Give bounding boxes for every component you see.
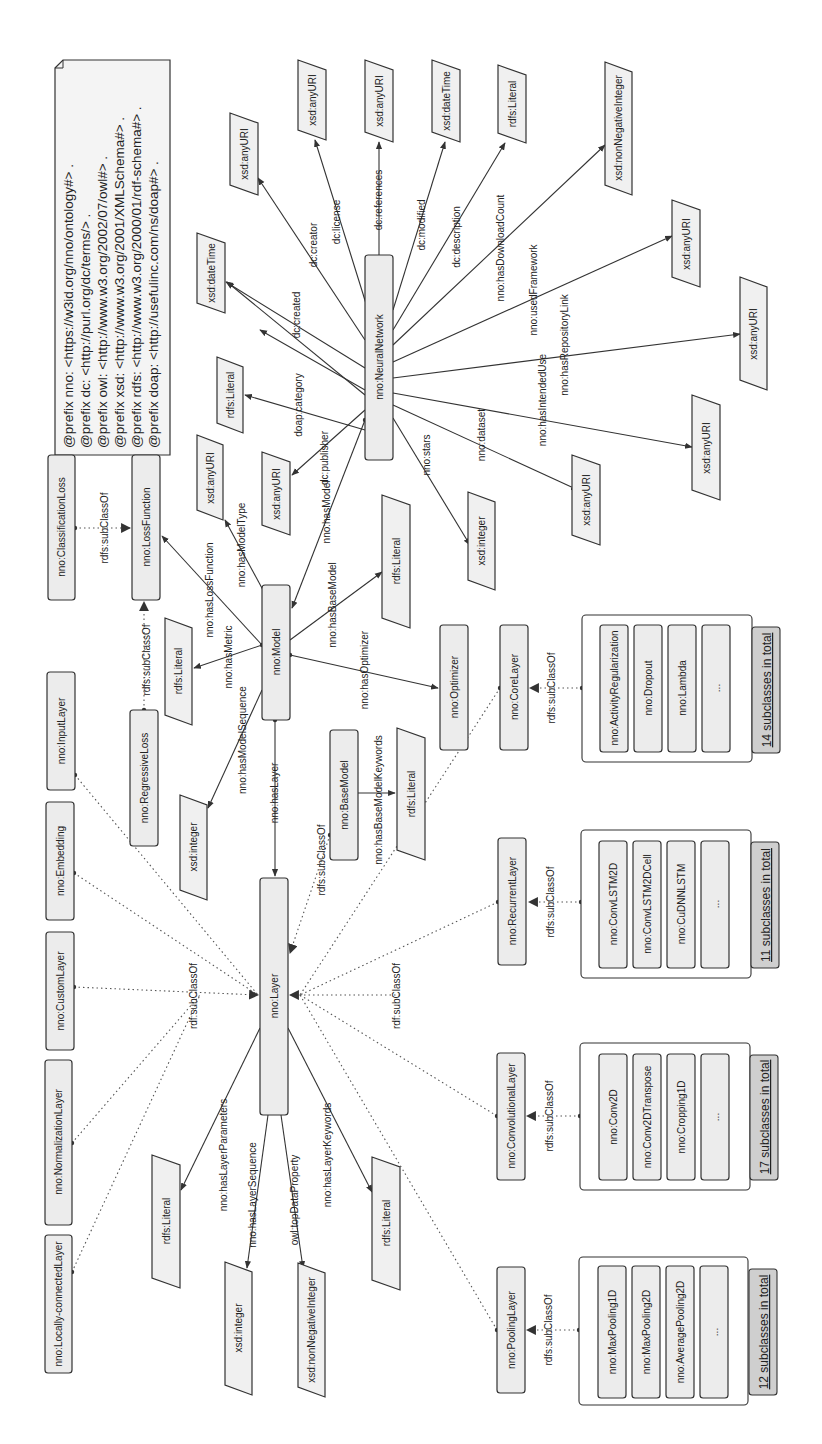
prefix-line: @prefix nno: <https://w3id.org/nno/ontol… [61, 164, 76, 448]
group-item[interactable]: nno:AveragePooling2D [666, 1266, 694, 1398]
svg-text:nno:ConvolutionalLayer: nno:ConvolutionalLayer [506, 1063, 517, 1169]
group-item[interactable]: nno:Lambda [668, 625, 696, 752]
svg-text:xsd:anyURI: xsd:anyURI [581, 474, 592, 526]
group-item-more[interactable]: ... [700, 1266, 728, 1398]
literal-any-uri-dataset[interactable]: xsd:anyURI [572, 455, 600, 545]
class-convolutional-layer[interactable]: nno:ConvolutionalLayer [497, 1053, 525, 1180]
literal-integer-layer-sequence[interactable]: xsd:integer [225, 1262, 252, 1395]
literal-rdfs-literal-description[interactable]: rdfs:Literal [498, 65, 526, 143]
class-base-model[interactable]: nno:BaseModel [330, 730, 358, 860]
literal-any-uri-repository[interactable]: xsd:anyURI [740, 277, 767, 390]
svg-text:xsd:anyURI: xsd:anyURI [701, 422, 712, 474]
svg-text:nno:Optimizer: nno:Optimizer [449, 655, 460, 718]
svg-text:xsd:anyURI: xsd:anyURI [681, 218, 692, 270]
edge-label: dc:publisher [319, 430, 330, 485]
svg-text:nno:Lambda: nno:Lambda [677, 660, 688, 716]
svg-text:rdfs:Literal: rdfs:Literal [225, 372, 236, 419]
svg-text:11 subclasses in total: 11 subclasses in total [759, 848, 773, 962]
svg-text:rdfs:Literal: rdfs:Literal [507, 81, 518, 128]
svg-text:nno:Conv2D: nno:Conv2D [608, 1089, 619, 1145]
literal-any-uri-framework[interactable]: xsd:anyURI [672, 200, 700, 287]
literal-rdfs-literal-layer-keywords[interactable]: rdfs:Literal [372, 1157, 400, 1290]
svg-text:nno:ConvLSTM2D: nno:ConvLSTM2D [608, 863, 619, 945]
prefix-line: @prefix rdfs: <http://www.w3.org/2000/01… [129, 106, 144, 448]
class-layer[interactable]: nno:Layer [260, 878, 288, 1115]
group-item-more[interactable]: ... [701, 841, 729, 968]
subclass-group-convolutional: nno:Conv2D nno:Conv2DTranspose nno:Cropp… [580, 1043, 778, 1190]
class-regressive-loss[interactable]: nno:RegressiveLoss [130, 710, 158, 846]
group-item[interactable]: nno:Conv2D [599, 1054, 627, 1180]
class-optimizer[interactable]: nno:Optimizer [440, 625, 468, 750]
class-embedding[interactable]: nno:Embedding [46, 802, 74, 920]
svg-text:nno:RegressiveLoss: nno:RegressiveLoss [139, 733, 150, 824]
literal-integer-stars[interactable]: xsd:integer [468, 492, 495, 590]
group-item[interactable]: nno:ConvLSTM2D [599, 841, 627, 968]
class-custom-layer[interactable]: nno:CustomLayer [46, 932, 74, 1050]
class-normalization-layer[interactable]: nno:NormalizationLayer [45, 1060, 72, 1225]
svg-text:rdfs:Literal: rdfs:Literal [161, 1198, 172, 1245]
group-item[interactable]: nno:ActivityRegularization [600, 625, 628, 752]
class-locally-connected-layer[interactable]: nno:Locally-connectedLayer [45, 1235, 72, 1373]
svg-text:xsd:anyURI: xsd:anyURI [374, 75, 385, 127]
class-pooling-layer[interactable]: nno:PoolingLayer [497, 1267, 525, 1393]
literal-any-uri-references[interactable]: xsd:anyURI [365, 60, 393, 142]
edge-label: rdfs:subClassOf [545, 866, 556, 937]
class-loss-function[interactable]: nno:LossFunction [132, 455, 160, 600]
edge-label: dc:modified [416, 199, 427, 250]
subclass-group-recurrent: nno:ConvLSTM2D nno:ConvLSTM2DCell nno:Cu… [581, 830, 779, 978]
class-core-layer[interactable]: nno:CoreLayer [500, 625, 528, 750]
literal-any-uri-intended-use[interactable]: xsd:anyURI [692, 395, 720, 500]
edge-label: nno:dataset [476, 409, 487, 461]
svg-text:nno:CuDNNLSTM: nno:CuDNNLSTM [676, 864, 687, 945]
group-item[interactable]: nno:ConvLSTM2DCell [633, 841, 661, 968]
literal-rdfs-literal-category[interactable]: rdfs:Literal [217, 357, 243, 433]
literal-date-time-modified[interactable]: xsd:dateTime [432, 60, 460, 142]
svg-text:xsd:nonNegativeInteger: xsd:nonNegativeInteger [306, 1277, 317, 1383]
prefix-line: @prefix xsd: <http://www.w3.org/2001/XML… [112, 117, 127, 448]
group-item-more[interactable]: ... [701, 1054, 729, 1180]
svg-text:nno:Locally-connectedLayer: nno:Locally-connectedLayer [53, 1241, 64, 1367]
svg-text:nno:NormalizationLayer: nno:NormalizationLayer [53, 1089, 64, 1195]
edge-label: dc:description [451, 206, 462, 268]
svg-text:nno:BaseModel: nno:BaseModel [339, 760, 350, 830]
class-recurrent-layer[interactable]: nno:RecurrentLayer [498, 838, 526, 965]
literal-rdfs-literal-base-model[interactable]: rdfs:Literal [382, 495, 410, 628]
group-item[interactable]: nno:MaxPooling1D [598, 1266, 626, 1398]
literal-any-uri-publisher[interactable]: xsd:anyURI [262, 452, 290, 535]
group-item[interactable]: nno:MaxPooling2D [632, 1266, 660, 1398]
group-item-more[interactable]: ... [702, 625, 730, 752]
literal-rdfs-literal-metric[interactable]: rdfs:Literal [165, 618, 192, 725]
edge-label: nno:hasModel [321, 481, 332, 544]
edge-label: rdfs:subClassOf [316, 824, 327, 895]
class-input-layer[interactable]: nno:InputLayer [47, 672, 75, 790]
literal-any-uri-license[interactable]: xsd:anyURI [298, 60, 326, 140]
literal-date-time-created[interactable]: xsd:dateTime [197, 233, 225, 313]
literal-rdfs-literal-layer-parameters[interactable]: rdfs:Literal [152, 1155, 180, 1288]
class-classification-loss[interactable]: nno:ClassificationLoss [48, 455, 75, 600]
group-item[interactable]: nno:Cropping1D [667, 1054, 695, 1180]
edge-label: nno:usedFramework [528, 243, 539, 335]
svg-text:xsd:integer: xsd:integer [233, 1303, 244, 1353]
literal-any-uri-model-type[interactable]: xsd:anyURI [197, 435, 223, 520]
svg-text:rdfs:Literal: rdfs:Literal [173, 648, 184, 695]
class-neural-network[interactable]: nno:NeuralNetwork [365, 255, 393, 460]
svg-text:rdfs:Literal: rdfs:Literal [391, 538, 402, 585]
edge-label: nno:hasBaseModelKeywords [373, 735, 384, 865]
class-model[interactable]: nno:Model [262, 585, 290, 720]
literal-rdfs-literal-base-model-keywords[interactable]: rdfs:Literal [397, 728, 425, 860]
edge-label: nno:hasIntendedUse [537, 353, 548, 446]
svg-text:nno:AveragePooling2D: nno:AveragePooling2D [675, 1281, 686, 1384]
literal-non-negative-integer-download[interactable]: xsd:nonNegativeInteger [605, 62, 632, 195]
literal-integer-model-sequence[interactable]: xsd:integer [180, 795, 207, 900]
literal-non-negative-integer-top-data[interactable]: xsd:nonNegativeInteger [298, 1263, 325, 1397]
svg-text:nno:ClassificationLoss: nno:ClassificationLoss [56, 477, 67, 577]
subclass-group-core: nno:ActivityRegularization nno:Dropout n… [582, 615, 780, 762]
group-item[interactable]: nno:Dropout [634, 625, 662, 752]
edge-label: nno:hasOptimizer [359, 630, 370, 709]
subclass-count-badge: 12 subclasses in total [749, 1269, 777, 1395]
svg-text:nno:Layer: nno:Layer [269, 973, 280, 1018]
edge-label: dc:created [291, 292, 302, 339]
group-item[interactable]: nno:Conv2DTranspose [633, 1054, 661, 1180]
group-item[interactable]: nno:CuDNNLSTM [667, 841, 695, 968]
literal-any-uri-creator[interactable]: xsd:anyURI [230, 113, 258, 195]
